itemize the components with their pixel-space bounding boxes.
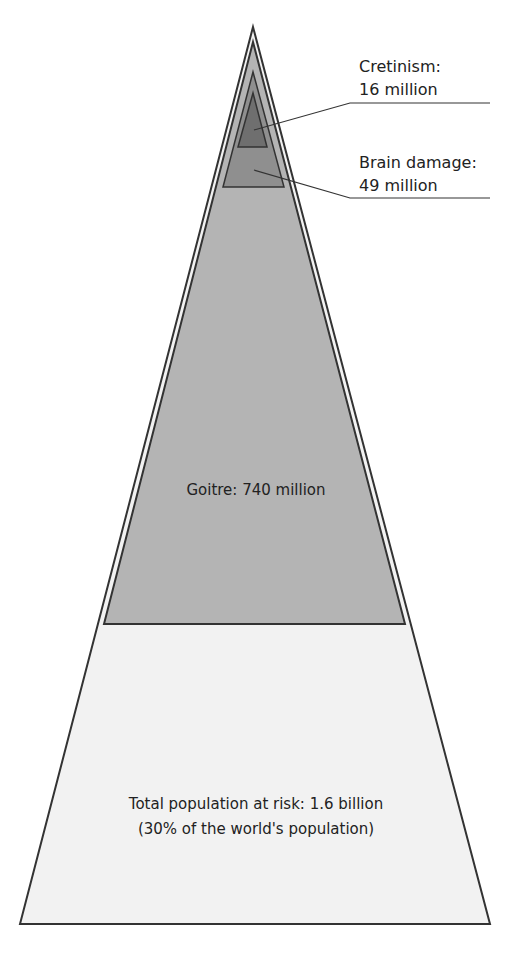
total-population-label-2: (30% of the world's population) bbox=[138, 820, 374, 838]
cretinism-label-1: Cretinism: bbox=[359, 57, 441, 76]
goitre-label: Goitre: 740 million bbox=[186, 481, 325, 499]
brain-damage-label-2: 49 million bbox=[359, 176, 438, 195]
brain-damage-label-1: Brain damage: bbox=[359, 153, 477, 172]
cretinism-leader-line bbox=[254, 103, 490, 130]
total-population-label-1: Total population at risk: 1.6 billion bbox=[128, 795, 383, 813]
pyramid-diagram: Cretinism: 16 million Brain damage: 49 m… bbox=[0, 0, 515, 955]
pyramid-svg: Cretinism: 16 million Brain damage: 49 m… bbox=[0, 0, 515, 955]
cretinism-label-2: 16 million bbox=[359, 80, 438, 99]
